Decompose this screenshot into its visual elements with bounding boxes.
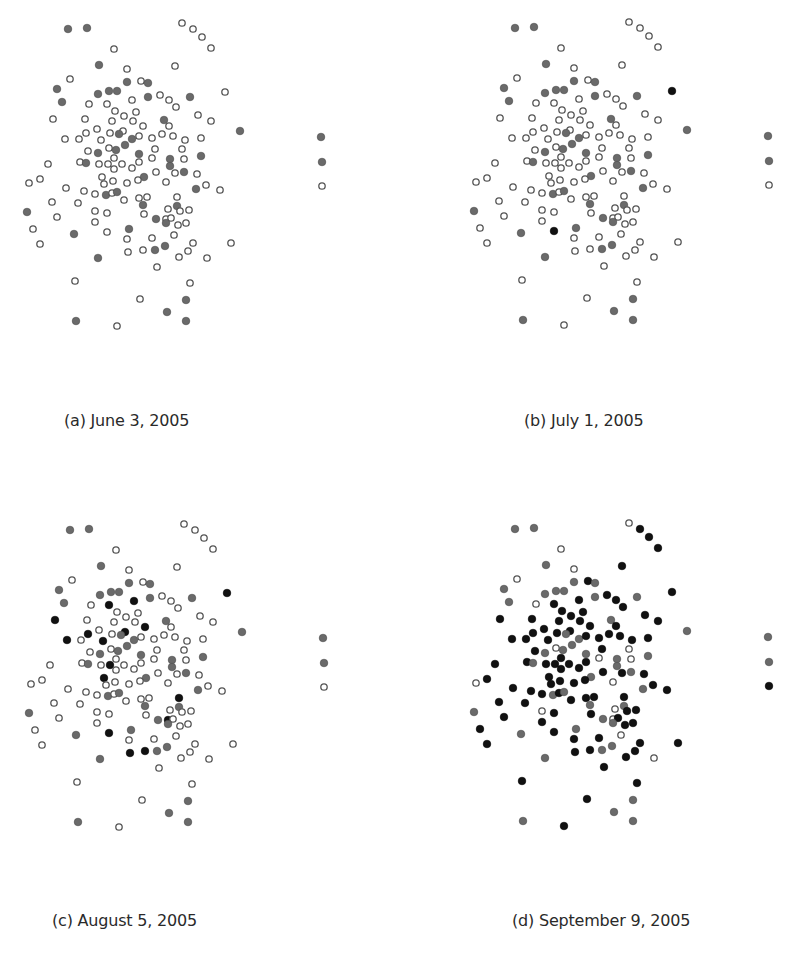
data-point [112,146,120,154]
data-point [558,165,564,171]
data-point [63,636,71,644]
data-point [115,588,123,596]
data-point [540,625,548,633]
data-point [26,180,32,186]
data-point [174,194,180,200]
data-point [172,63,178,69]
data-point [607,115,615,123]
data-point [196,672,202,678]
data-point [111,619,117,625]
data-point [586,622,594,630]
data-point [163,743,171,751]
data-point [505,598,513,606]
data-point [628,636,636,644]
data-point [149,135,155,141]
data-point [99,174,105,180]
data-point [162,219,170,227]
data-point [554,129,560,135]
data-point [598,645,606,653]
data-point [519,277,525,283]
data-point [583,795,591,803]
data-point [533,100,539,106]
data-point [559,145,567,153]
data-point [619,62,625,68]
data-point [98,662,104,668]
data-point [629,136,635,142]
data-point [584,577,592,585]
data-point [166,155,174,163]
data-point [539,708,545,714]
data-point [104,210,110,216]
panel-c-scatter [25,521,328,830]
data-point [655,117,661,123]
data-point [204,255,210,261]
data-point [582,149,590,157]
data-point [568,641,576,649]
data-point [559,646,567,654]
data-point [617,132,623,138]
data-point [184,818,192,826]
caption-panel-d: (d) September 9, 2005 [512,911,690,930]
data-point [92,219,98,225]
data-point [238,628,246,636]
data-point [182,137,188,143]
data-point [626,520,632,526]
data-point [197,152,205,160]
data-point [470,708,478,716]
data-point [668,87,676,95]
data-point [603,591,611,599]
data-point [675,239,681,245]
caption-panel-b: (b) July 1, 2005 [524,411,643,430]
data-point [174,671,180,677]
data-point [121,113,127,119]
data-point [124,66,130,72]
data-point [629,817,637,825]
data-point [152,215,160,223]
data-point [132,619,138,625]
data-point [529,115,535,121]
data-point [539,190,545,196]
data-point [199,34,205,40]
data-point [109,118,115,124]
data-point [106,711,112,717]
data-point [109,631,115,637]
data-point [172,634,178,640]
data-point [84,617,90,623]
data-point [629,796,637,804]
data-point [163,308,171,316]
data-point [121,141,129,149]
data-point [183,220,189,226]
data-point [137,651,145,659]
data-point [72,317,80,325]
data-point [514,75,520,81]
data-point [179,146,185,152]
data-point [199,653,207,661]
data-point [137,296,143,302]
data-point [558,546,564,552]
data-point [37,176,43,182]
data-point [550,709,558,717]
data-point [175,222,181,228]
data-point [88,602,94,608]
data-point [518,777,526,785]
data-point [188,708,194,714]
data-point [28,681,34,687]
data-point [60,599,68,607]
data-point [596,154,602,160]
data-point [173,733,179,739]
data-point [173,104,179,110]
data-point [112,679,118,685]
data-point [94,254,102,262]
data-point [562,129,570,137]
data-point [83,689,89,695]
data-point [620,103,626,109]
data-point [96,591,104,599]
data-point [116,824,122,830]
data-point [161,632,167,638]
data-point [613,154,621,162]
data-point [165,206,171,212]
data-point [628,656,634,662]
data-point [476,725,484,733]
data-point [500,713,508,721]
data-point [633,779,641,787]
